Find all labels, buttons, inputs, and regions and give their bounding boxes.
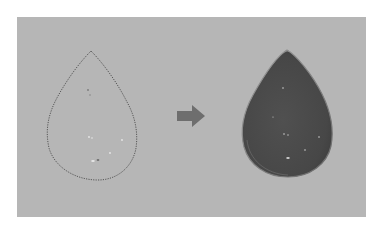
illustration	[0, 0, 382, 234]
arrow-right-icon	[177, 105, 205, 127]
speck-marks	[87, 89, 123, 162]
filled-teardrop	[242, 50, 332, 177]
selection-outline	[47, 51, 136, 180]
